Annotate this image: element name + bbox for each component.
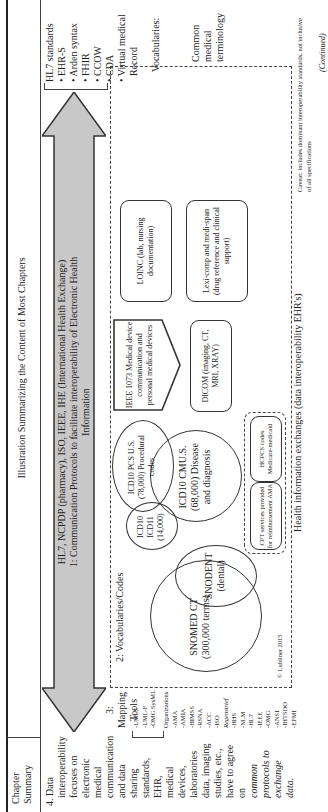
header-divider [7,737,41,738]
dicom-box: DICOM (imaging, CT, MRI, XRAY) [190,320,232,412]
hl7-bracket [44,83,108,90]
icd10pcs-label: ICD10 PCS U.S. (78,000) Procedural codes [118,434,166,500]
vocab-footer: Health information exchanges (data inter… [292,293,304,532]
ieee-label: IEEE 1073 Medical device communication a… [116,320,164,410]
header-rule [40,0,41,812]
continued: (Continued) [318,33,328,72]
top-rule [6,0,8,812]
vocab-section-label: 2: Vocabularies/Codes [114,573,126,662]
icd10cm-label: ICD10 CMU.S. (68,000) Disease and diagno… [165,442,225,512]
cpt-box: CPT services provided for reimbursement … [250,482,282,550]
mapping-tools: -UMLS -UML-F -OMG SysML [132,688,158,728]
caveat: Caveat: includes dominant interoperabili… [296,12,313,192]
snodent-label: SNODENT (dental) [195,550,235,602]
vocab-right-title: Vocabularies: [150,18,162,72]
chapter-summary: 4. Data interoperability focuses on elec… [44,738,296,806]
arrow-text: HL7, NCPDP (pharmacy), ISO, IEEE, IHE (I… [56,142,92,682]
loinc-box: LOINC (lab, nursing documentation) [120,200,172,302]
hcpcs-box: HCPCS codes Medicare-medicaid [250,416,282,482]
header-title: Illustration Summarizing the Content of … [16,0,28,736]
org-list: Organizations -AMA-AMIA-HIMSS -RSNA-ACC-… [162,688,298,728]
lexi-box: Lexi-comp and medi-span (drug reference … [186,200,248,302]
summary-lines: 4. Data interoperability focuses on elec… [44,738,296,806]
copyright: © Lubliner 2015 [276,634,285,678]
mapping-bracket [132,731,164,738]
icd10-11-label: ICD10 ICD11 (14,000) [134,508,168,546]
vocab-right-sub: Common medical terminology [190,2,226,62]
header-col1: Chapter Summary [10,744,34,804]
